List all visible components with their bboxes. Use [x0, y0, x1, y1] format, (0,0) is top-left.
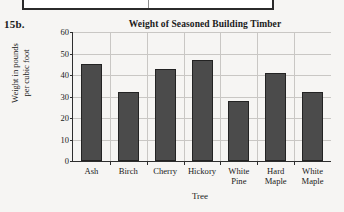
x-category-label: Hard Maple — [257, 166, 294, 186]
x-category-label: White Pine — [220, 166, 257, 186]
x-gridline — [257, 32, 258, 161]
y-tick-mark — [70, 97, 73, 98]
x-gridline — [184, 32, 185, 161]
y-axis-title: Weight in pounds per cubic foot — [10, 25, 36, 121]
x-gridline — [147, 32, 148, 161]
y-tick-label: 10 — [61, 135, 70, 145]
bar — [118, 92, 139, 161]
y-tick-mark — [70, 32, 73, 33]
x-axis-title: Tree — [70, 191, 330, 201]
x-category-label: Cherry — [147, 166, 184, 176]
x-gridline — [220, 32, 221, 161]
x-tick-mark — [110, 161, 111, 165]
y-tick-label: 30 — [61, 92, 70, 102]
x-tick-mark — [184, 161, 185, 165]
y-tick-label: 20 — [61, 113, 70, 123]
x-tick-mark — [147, 161, 148, 165]
y-gridline — [73, 32, 331, 33]
y-tick-label: 60 — [61, 27, 70, 37]
y-tick-mark — [70, 75, 73, 76]
y-tick-label: 0 — [65, 156, 69, 166]
y-tick-label: 50 — [61, 49, 70, 59]
x-tick-mark — [220, 161, 221, 165]
chart-title: Weight of Seasoned Building Timber — [80, 19, 330, 29]
y-gridline — [73, 54, 331, 55]
bar — [192, 60, 213, 161]
y-tick-mark — [70, 140, 73, 141]
plot-area: 0102030405060AshBirchCherryHickoryWhite … — [72, 32, 331, 162]
bar — [228, 101, 249, 161]
bar — [265, 73, 286, 161]
x-tick-mark — [257, 161, 258, 165]
y-axis-title-line-1: Weight in pounds — [10, 25, 21, 121]
y-tick-mark — [70, 161, 73, 162]
x-category-label: White Maple — [294, 166, 331, 186]
x-gridline — [110, 32, 111, 161]
bar — [302, 92, 323, 161]
y-tick-label: 40 — [61, 70, 70, 80]
x-category-label: Ash — [73, 166, 110, 176]
bar-chart-figure: Weight of Seasoned Building Timber Weigh… — [0, 0, 344, 212]
y-tick-mark — [70, 54, 73, 55]
y-tick-mark — [70, 118, 73, 119]
bar — [81, 64, 102, 161]
x-category-label: Birch — [110, 166, 147, 176]
bar — [155, 69, 176, 161]
x-gridline — [294, 32, 295, 161]
x-category-label: Hickory — [184, 166, 221, 176]
y-axis-title-line-2: per cubic foot — [21, 25, 32, 121]
x-tick-mark — [294, 161, 295, 165]
